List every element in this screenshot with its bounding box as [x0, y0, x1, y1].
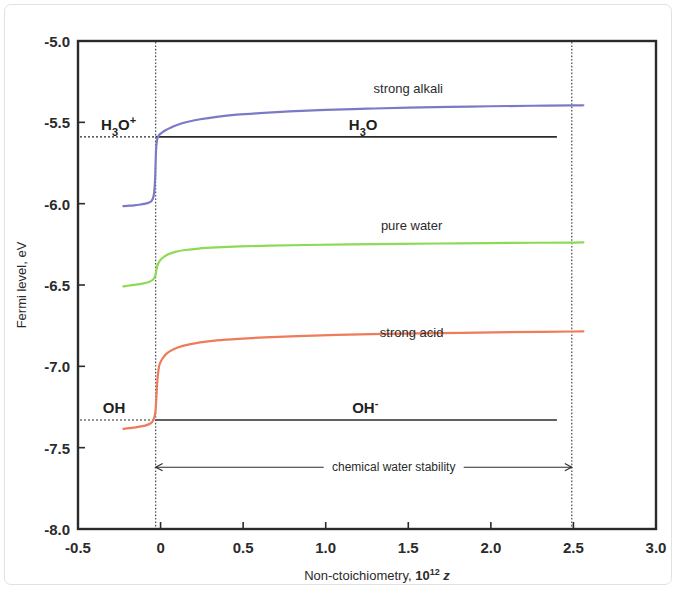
y-tick-label: -5.5 — [44, 114, 70, 131]
plot-frame — [78, 41, 656, 529]
y-tick-label: -7.5 — [44, 440, 70, 457]
oh-minus-label-right: OH- — [352, 397, 379, 416]
x-tick-label: 3.0 — [646, 539, 667, 556]
x-tick-label: 1.0 — [315, 539, 336, 556]
curve-label-pure-water: pure water — [381, 218, 443, 233]
x-tick-label: 2.0 — [480, 539, 501, 556]
y-tick-label: -6.5 — [44, 277, 70, 294]
stability-annotation-label: chemical water stability — [332, 460, 455, 474]
y-tick-label: -5.0 — [44, 33, 70, 50]
x-tick-label: 2.5 — [563, 539, 584, 556]
y-tick-label: -6.0 — [44, 196, 70, 213]
figure-container: -0.500.51.01.52.02.53.0-5.0-5.5-6.0-6.5-… — [0, 0, 678, 590]
x-tick-label: 1.5 — [398, 539, 419, 556]
curve-label-strong-acid: strong acid — [380, 325, 444, 340]
oh-label-left: OH — [103, 399, 126, 416]
y-tick-label: -7.0 — [44, 358, 70, 375]
x-tick-label: 0 — [156, 539, 164, 556]
x-axis-title: Non-ctoichiometry, 1012 z — [304, 567, 450, 583]
curve-label-strong-alkali: strong alkali — [374, 81, 443, 96]
fermi-level-chart: -0.500.51.01.52.02.53.0-5.0-5.5-6.0-6.5-… — [0, 0, 678, 590]
y-tick-label: -8.0 — [44, 521, 70, 538]
x-tick-label: -0.5 — [65, 539, 91, 556]
x-tick-label: 0.5 — [233, 539, 254, 556]
y-axis-title: Fermi level, eV — [14, 241, 29, 328]
h3o-label-right: H3O — [349, 116, 378, 138]
curve-pure-water — [123, 242, 583, 286]
h3o-plus-label-left: H3O+ — [101, 114, 136, 138]
